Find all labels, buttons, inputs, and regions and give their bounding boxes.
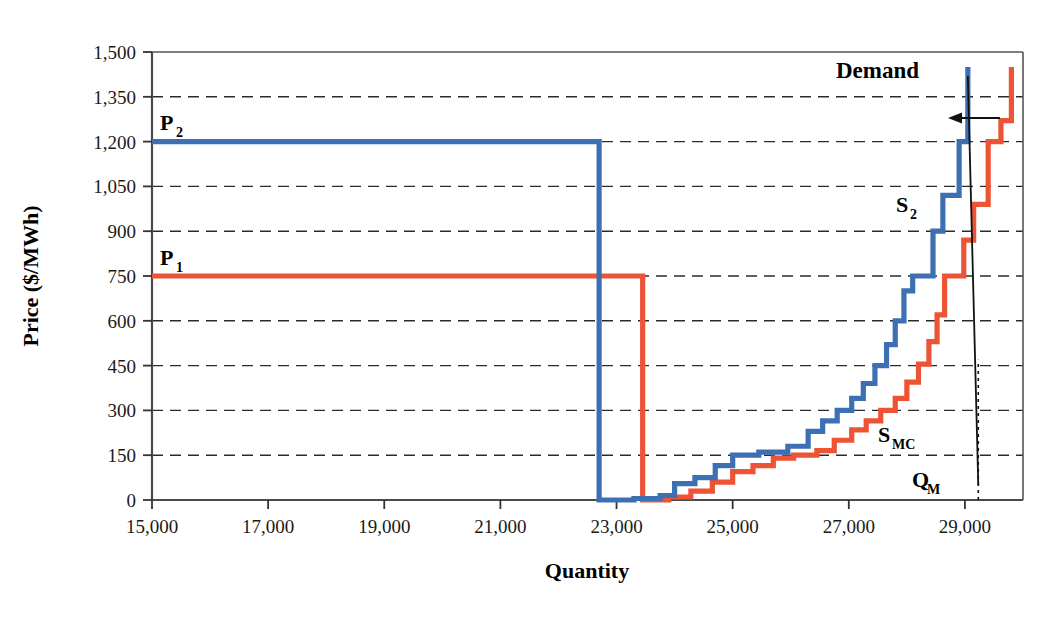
chart-figure: 01503004506007509001,0501,2001,3501,500 … xyxy=(0,0,1063,617)
x-tick-label: 21,000 xyxy=(474,516,526,537)
y-tick-label: 1,350 xyxy=(93,87,136,108)
y-tick-label: 750 xyxy=(108,266,137,287)
x-axis-tick-marks xyxy=(152,500,965,509)
annotation-demand-label: Demand xyxy=(836,58,919,83)
x-tick-label: 17,000 xyxy=(242,516,294,537)
annotation-p2-subscript: 2 xyxy=(176,125,183,140)
y-tick-label: 1,500 xyxy=(93,42,136,63)
x-tick-label: 19,000 xyxy=(358,516,410,537)
annotation-s2-subscript: 2 xyxy=(910,207,917,222)
x-tick-label: 25,000 xyxy=(707,516,759,537)
annotation-p1-text: P xyxy=(160,245,173,270)
x-tick-label: 15,000 xyxy=(126,516,178,537)
x-tick-label: 23,000 xyxy=(590,516,642,537)
y-tick-label: 600 xyxy=(108,311,137,332)
y-tick-label: 1,200 xyxy=(93,132,136,153)
y-axis-tick-labels: 01503004506007509001,0501,2001,3501,500 xyxy=(93,42,136,511)
x-tick-label: 29,000 xyxy=(939,516,991,537)
y-axis-tick-marks xyxy=(143,52,152,500)
y-axis-title: Price ($/MWh) xyxy=(18,205,43,346)
supply-demand-chart: 01503004506007509001,0501,2001,3501,500 … xyxy=(0,0,1063,617)
y-tick-label: 300 xyxy=(108,400,137,421)
annotation-p2-text: P xyxy=(160,110,173,135)
y-tick-label: 450 xyxy=(108,356,137,377)
x-axis-tick-labels: 15,00017,00019,00021,00023,00025,00027,0… xyxy=(126,516,991,537)
annotation-p1-subscript: 1 xyxy=(176,260,183,275)
y-tick-label: 0 xyxy=(127,490,137,511)
annotation-smc-subscript: MC xyxy=(892,437,915,452)
annotation-s2-text: S xyxy=(896,192,908,217)
y-tick-label: 150 xyxy=(108,445,137,466)
annotation-smc-text: S xyxy=(878,422,890,447)
y-tick-label: 900 xyxy=(108,221,137,242)
x-tick-label: 27,000 xyxy=(823,516,875,537)
annotation-qm-subscript: M xyxy=(927,482,940,497)
x-axis-title: Quantity xyxy=(545,558,629,583)
y-tick-label: 1,050 xyxy=(93,176,136,197)
